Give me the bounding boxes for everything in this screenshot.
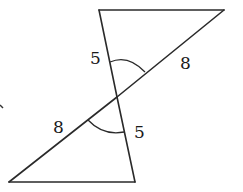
upper-angle-arc [110,60,145,72]
label-upper-right-side: 8 [180,53,191,73]
upper-right-edge [117,10,224,97]
lower-right-edge [117,97,135,182]
label-upper-left-side: 5 [90,48,101,68]
stray-mark [0,105,3,108]
vertical-angle-triangles-diagram: 5 8 8 5 [0,0,243,192]
label-lower-right-side: 5 [134,122,145,142]
lower-left-edge [9,97,117,182]
lower-angle-arc [88,120,124,133]
upper-left-edge [99,10,117,97]
upper-triangle [99,10,224,97]
label-lower-left-side: 8 [53,117,64,137]
lower-triangle [9,97,135,182]
